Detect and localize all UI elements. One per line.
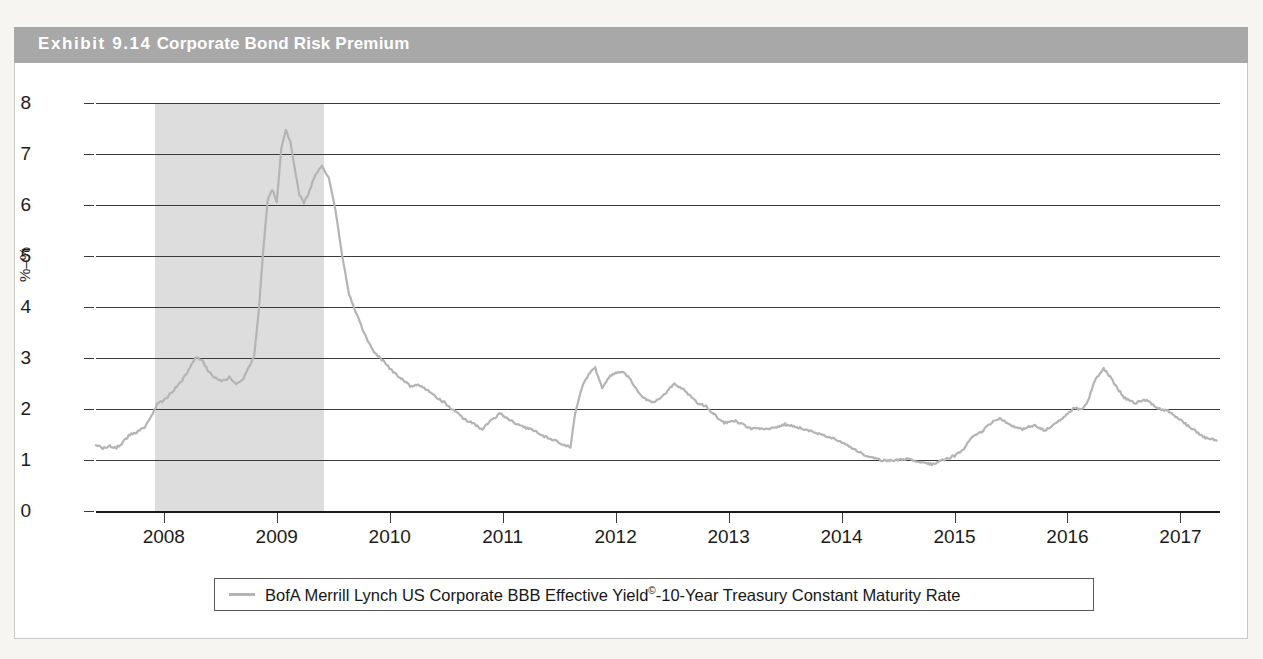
legend-label: BofA Merrill Lynch US Corporate BBB Effe… xyxy=(265,585,961,605)
y-tick-mark-7 xyxy=(84,154,94,155)
page-title: Exhibit 9.14 Corporate Bond Risk Premium xyxy=(38,34,410,54)
gridline-0 xyxy=(96,511,1220,513)
y-tick-mark-3 xyxy=(84,358,94,359)
legend-line-swatch xyxy=(229,593,255,596)
x-tick-label-2013: 2013 xyxy=(689,526,769,548)
figure-page: Exhibit 9.14 Corporate Bond Risk Premium… xyxy=(0,0,1263,659)
y-tick-label-2: 2 xyxy=(0,398,31,420)
x-tick-label-2015: 2015 xyxy=(915,526,995,548)
y-tick-mark-4 xyxy=(84,307,94,308)
legend-copyright-mark: © xyxy=(648,585,655,596)
y-tick-mark-5 xyxy=(84,256,94,257)
series-polyline xyxy=(96,130,1217,465)
exhibit-title-bar: Exhibit 9.14 Corporate Bond Risk Premium xyxy=(14,27,1248,63)
x-tick-label-2012: 2012 xyxy=(576,526,656,548)
x-tick-label-2009: 2009 xyxy=(237,526,317,548)
x-tick-label-2011: 2011 xyxy=(463,526,543,548)
y-tick-label-5: 5 xyxy=(0,245,31,267)
y-tick-label-4: 4 xyxy=(0,296,31,318)
x-tick-label-2010: 2010 xyxy=(350,526,430,548)
x-tick-label-2014: 2014 xyxy=(802,526,882,548)
y-tick-label-7: 7 xyxy=(0,143,31,165)
x-tick-label-2008: 2008 xyxy=(124,526,204,548)
y-tick-label-8: 8 xyxy=(0,92,31,114)
exhibit-number: Exhibit 9.14 xyxy=(38,34,152,53)
legend-label-tail: -10-Year Treasury Constant Maturity Rate xyxy=(656,585,961,603)
legend-label-main: BofA Merrill Lynch US Corporate BBB Effe… xyxy=(265,585,648,603)
y-tick-mark-8 xyxy=(84,103,94,104)
chart-legend: BofA Merrill Lynch US Corporate BBB Effe… xyxy=(214,578,1094,611)
series-line-chart xyxy=(96,103,1220,511)
x-tick-label-2017: 2017 xyxy=(1140,526,1220,548)
y-tick-label-1: 1 xyxy=(0,449,31,471)
y-tick-label-3: 3 xyxy=(0,347,31,369)
y-tick-mark-2 xyxy=(84,409,94,410)
y-tick-label-0: 0 xyxy=(0,500,31,522)
x-tick-label-2016: 2016 xyxy=(1027,526,1107,548)
y-tick-mark-0 xyxy=(84,511,94,512)
exhibit-title: Corporate Bond Risk Premium xyxy=(157,34,410,53)
y-tick-mark-1 xyxy=(84,460,94,461)
y-tick-mark-6 xyxy=(84,205,94,206)
y-tick-label-6: 6 xyxy=(0,194,31,216)
plot-area xyxy=(96,103,1220,511)
